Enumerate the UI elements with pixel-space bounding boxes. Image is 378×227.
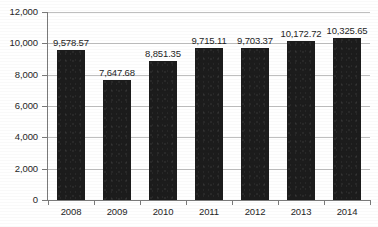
y-axis-label: 0 bbox=[0, 195, 38, 205]
bar-2009[interactable] bbox=[103, 80, 131, 200]
x-axis-label-2008: 2008 bbox=[48, 206, 94, 217]
x-axis-line bbox=[47, 200, 371, 201]
y-axis-label: 12,000 bbox=[0, 7, 38, 17]
bar-2008[interactable] bbox=[57, 50, 85, 200]
x-axis-label-2014: 2014 bbox=[324, 206, 370, 217]
bar-2010[interactable] bbox=[149, 61, 177, 200]
gridline-12000 bbox=[48, 12, 370, 13]
x-tick-2008 bbox=[48, 200, 49, 205]
x-tick-2009 bbox=[94, 200, 95, 205]
x-axis-label-2012: 2012 bbox=[232, 206, 278, 217]
data-label-2008: 9,578.57 bbox=[44, 37, 98, 48]
y-axis-label: 10,000 bbox=[0, 38, 38, 48]
x-tick-2011 bbox=[186, 200, 187, 205]
bar-2011[interactable] bbox=[195, 48, 223, 200]
data-label-2009: 7,647.68 bbox=[90, 67, 144, 78]
x-tick-2013 bbox=[278, 200, 279, 205]
data-label-2010: 8,851.35 bbox=[136, 48, 190, 59]
bar-2014[interactable] bbox=[333, 38, 361, 200]
x-axis-label-2013: 2013 bbox=[278, 206, 324, 217]
data-label-2014: 10,325.65 bbox=[320, 25, 374, 36]
x-axis-label-2010: 2010 bbox=[140, 206, 186, 217]
y-axis-label: 2,000 bbox=[0, 164, 38, 174]
x-axis-label-2011: 2011 bbox=[186, 206, 232, 217]
y-axis-label: 6,000 bbox=[0, 101, 38, 111]
x-tick-end bbox=[370, 200, 371, 205]
bar-chart: 02,0004,0006,0008,00010,00012,000 200820… bbox=[0, 0, 378, 227]
bar-2012[interactable] bbox=[241, 48, 269, 200]
x-tick-2014 bbox=[324, 200, 325, 205]
x-axis-label-2009: 2009 bbox=[94, 206, 140, 217]
x-tick-2012 bbox=[232, 200, 233, 205]
x-tick-2010 bbox=[140, 200, 141, 205]
y-axis-label: 4,000 bbox=[0, 132, 38, 142]
bar-2013[interactable] bbox=[287, 41, 315, 200]
y-axis-label: 8,000 bbox=[0, 70, 38, 80]
